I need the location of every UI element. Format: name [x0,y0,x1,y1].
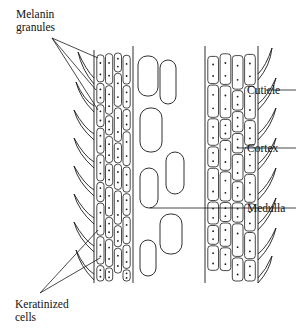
medulla-label: Medulla [247,202,285,215]
melanin-leader-3 [52,38,98,110]
left-cortex-cells [97,53,130,281]
left-cuticle-scales [74,52,94,280]
keratinized-leader-1 [40,230,98,293]
hair-structure-diagram [0,0,300,331]
melanin-label-line2: granules [16,21,55,34]
cortex-label: Cortex [247,142,278,155]
melanin-granules-label: Melanin granules [16,8,55,34]
keratinized-label-line2: cells [15,311,69,324]
cuticle-label: Cuticle [247,84,280,97]
medulla-cells [138,56,184,276]
melanin-leader-1 [52,38,98,58]
melanin-leader-2 [52,38,96,90]
keratinized-label-line1: Keratinized [15,298,69,311]
keratinized-leader-2 [40,258,100,293]
keratinized-cells-label: Keratinized cells [15,298,69,324]
melanin-label-line1: Melanin [16,8,55,21]
